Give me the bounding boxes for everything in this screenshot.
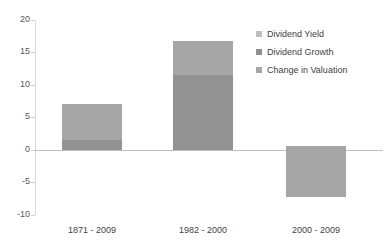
bar-2000-2009[interactable] <box>286 146 346 197</box>
y-axis: 20 15 10 5 0 -5 -10 <box>0 0 30 251</box>
y-axis-tick-label: -5 <box>2 177 30 186</box>
bar-1982-2000[interactable] <box>173 41 233 150</box>
legend-label: Dividend Growth <box>267 47 334 57</box>
legend-label: Dividend Yield <box>267 29 324 39</box>
y-axis-tick <box>31 182 35 183</box>
y-axis-line <box>35 20 36 215</box>
legend-swatch-icon <box>256 31 262 37</box>
chart-container: 20 15 10 5 0 -5 -10 1871 - 2009 1982 - 2… <box>0 0 388 251</box>
legend-swatch-icon <box>256 49 262 55</box>
y-axis-tick <box>31 85 35 86</box>
y-axis-tick <box>31 117 35 118</box>
y-axis-tick-label: 0 <box>2 145 30 154</box>
bar-segment-dividend-growth <box>62 104 122 140</box>
y-axis-tick-label: 15 <box>2 47 30 56</box>
x-axis-label-1982-2000: 1982 - 2000 <box>163 225 243 236</box>
y-axis-tick-label: -10 <box>2 210 30 219</box>
x-axis-label-2000-2009: 2000 - 2009 <box>276 225 356 236</box>
chart-legend: Dividend Yield Dividend Growth Change in… <box>256 25 386 79</box>
x-axis-label-1871-2009: 1871 - 2009 <box>52 225 132 236</box>
y-axis-tick <box>31 52 35 53</box>
bar-segment-change-in-valuation <box>286 146 346 197</box>
legend-label: Change in Valuation <box>267 65 347 75</box>
legend-item-dividend-yield[interactable]: Dividend Yield <box>256 25 386 43</box>
bar-1871-2009[interactable] <box>62 104 122 150</box>
bar-segment-dividend-yield <box>173 75 233 150</box>
legend-item-dividend-growth[interactable]: Dividend Growth <box>256 43 386 61</box>
bar-segment-dividend-growth <box>173 41 233 75</box>
bar-segment-dividend-yield <box>62 140 122 150</box>
y-axis-tick-label: 10 <box>2 80 30 89</box>
legend-item-change-in-valuation[interactable]: Change in Valuation <box>256 61 386 79</box>
y-axis-tick-label: 20 <box>2 15 30 24</box>
legend-swatch-icon <box>256 67 262 73</box>
y-axis-tick-label: 5 <box>2 112 30 121</box>
y-axis-tick <box>31 215 35 216</box>
y-axis-tick <box>31 20 35 21</box>
